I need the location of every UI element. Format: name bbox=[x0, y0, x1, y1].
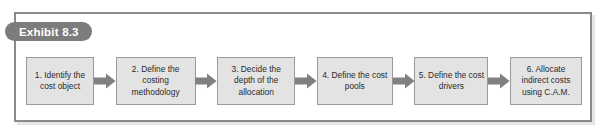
process-flow-diagram: 1. Identify the cost object 2. Define th… bbox=[26, 57, 582, 105]
exhibit-badge: Exhibit 8.3 bbox=[5, 22, 92, 41]
exhibit-figure: Exhibit 8.3 1. Identify the cost object … bbox=[0, 0, 607, 135]
process-step-6-label: 6. Allocate indirect costs using C.A.M. bbox=[514, 64, 578, 99]
process-step-4-label: 4. Define the cost pools bbox=[321, 70, 389, 93]
right-block-arrow-icon bbox=[195, 73, 217, 89]
right-block-arrow-icon bbox=[94, 73, 116, 89]
process-step-6: 6. Allocate indirect costs using C.A.M. bbox=[510, 57, 582, 105]
right-block-arrow-icon bbox=[393, 73, 415, 89]
flow-connector-5 bbox=[488, 57, 510, 105]
process-step-5: 5. Define the cost drivers bbox=[414, 57, 488, 105]
flow-connector-2 bbox=[196, 57, 218, 105]
right-block-arrow-icon bbox=[488, 73, 510, 89]
process-step-3: 3. Decide the depth of the allocation bbox=[217, 57, 295, 105]
process-step-2: 2. Define the costing methodology bbox=[116, 57, 196, 105]
process-step-1: 1. Identify the cost object bbox=[26, 57, 94, 105]
process-step-1-label: 1. Identify the cost object bbox=[30, 70, 90, 93]
process-step-5-label: 5. Define the cost drivers bbox=[418, 70, 484, 93]
right-block-arrow-icon bbox=[295, 73, 317, 89]
process-step-4: 4. Define the cost pools bbox=[317, 57, 393, 105]
process-step-2-label: 2. Define the costing methodology bbox=[120, 64, 192, 99]
flow-connector-1 bbox=[94, 57, 116, 105]
flow-connector-3 bbox=[295, 57, 317, 105]
flow-connector-4 bbox=[393, 57, 415, 105]
process-step-3-label: 3. Decide the depth of the allocation bbox=[221, 64, 291, 99]
